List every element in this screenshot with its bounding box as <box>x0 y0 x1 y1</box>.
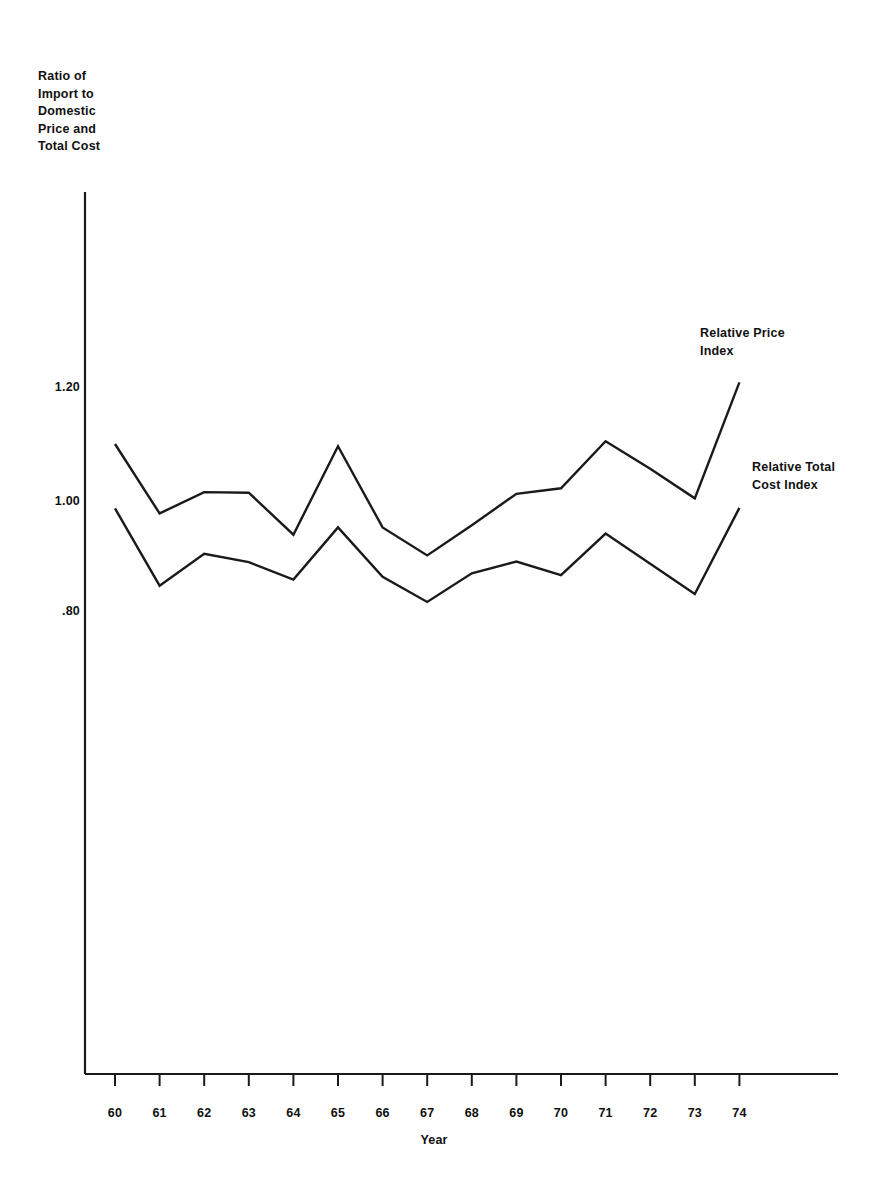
series-label-price-line-1: Relative Price <box>700 325 785 343</box>
series-label-cost-line-2: Cost Index <box>752 477 835 495</box>
x-tick-label-69: 69 <box>501 1106 531 1120</box>
x-tick-label-65: 65 <box>323 1106 353 1120</box>
series-label-price-line-2: Index <box>700 343 785 361</box>
x-tick-label-67: 67 <box>412 1106 442 1120</box>
series-label-cost-line-1: Relative Total <box>752 459 835 477</box>
series-label-relative-total-cost-index: Relative Total Cost Index <box>752 459 835 494</box>
plot-area <box>0 0 889 1194</box>
x-tick-label-62: 62 <box>189 1106 219 1120</box>
y-tick-label-080: .80 <box>28 604 80 618</box>
y-axis-title-line-1: Ratio of <box>38 68 148 86</box>
x-tick-label-74: 74 <box>724 1106 754 1120</box>
y-axis-title: Ratio of Import to Domestic Price and To… <box>38 68 148 156</box>
x-tick-label-60: 60 <box>100 1106 130 1120</box>
y-tick-label-120: 1.20 <box>28 380 80 394</box>
x-tick-label-70: 70 <box>546 1106 576 1120</box>
x-tick-label-68: 68 <box>457 1106 487 1120</box>
x-tick-label-64: 64 <box>278 1106 308 1120</box>
y-tick-label-100: 1.00 <box>28 494 80 508</box>
y-axis-title-line-3: Domestic <box>38 103 148 121</box>
y-axis-title-line-4: Price and <box>38 121 148 139</box>
x-tick-label-63: 63 <box>234 1106 264 1120</box>
x-tick-label-72: 72 <box>635 1106 665 1120</box>
x-axis-title: Year <box>394 1133 474 1147</box>
x-tick-label-71: 71 <box>591 1106 621 1120</box>
x-axis-tick-marks <box>115 1074 739 1086</box>
x-tick-label-66: 66 <box>368 1106 398 1120</box>
data-series-group <box>115 382 739 602</box>
chart-figure: Ratio of Import to Domestic Price and To… <box>0 0 889 1194</box>
x-tick-label-73: 73 <box>680 1106 710 1120</box>
y-axis-title-line-5: Total Cost <box>38 138 148 156</box>
series-label-relative-price-index: Relative Price Index <box>700 325 785 360</box>
series-line-relative-price-index <box>115 382 739 555</box>
x-tick-label-61: 61 <box>145 1106 175 1120</box>
y-axis-title-line-2: Import to <box>38 86 148 104</box>
